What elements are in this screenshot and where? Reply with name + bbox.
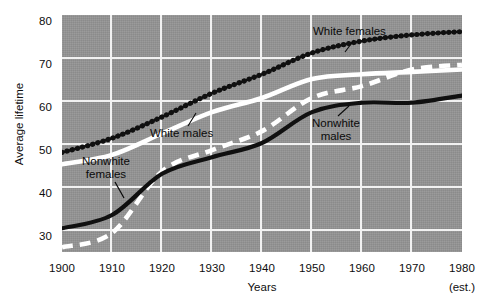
annotation-nonwhite-males-line1: Nonwhite bbox=[312, 117, 360, 130]
x-tick-1980: 1980 bbox=[432, 262, 492, 274]
annotation-nonwhite-females-line2: females bbox=[82, 168, 130, 181]
annotation-white-females-label: White females bbox=[313, 25, 386, 37]
lifetime-line-chart: 80 70 60 50 40 30 1900 1910 1920 1930 19… bbox=[0, 0, 492, 306]
annotation-white-males: White males bbox=[150, 127, 213, 140]
annotation-nonwhite-females: Nonwhite females bbox=[82, 155, 130, 180]
annotation-white-females: White females bbox=[313, 25, 386, 38]
annotation-nonwhite-females-line1: Nonwhite bbox=[82, 155, 130, 168]
x-axis-ticks: 1900 1910 1920 1930 1940 1950 1960 1970 … bbox=[0, 0, 492, 306]
annotation-nonwhite-males-line2: males bbox=[312, 130, 360, 143]
annotation-white-males-label: White males bbox=[150, 127, 213, 139]
estimate-note: (est.) bbox=[432, 281, 492, 293]
annotation-nonwhite-males: Nonwhite males bbox=[312, 117, 360, 142]
y-axis-title: Average lifetime bbox=[13, 69, 25, 179]
x-axis-title: Years bbox=[232, 281, 292, 293]
